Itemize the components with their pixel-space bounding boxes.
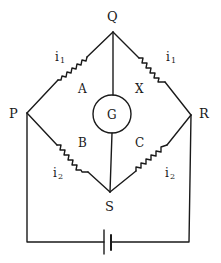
battery-branch [27, 113, 191, 254]
resistor-b-label: B [78, 136, 87, 150]
current-label-a: i 1 [55, 50, 65, 65]
node-p-label: P [9, 106, 18, 121]
current-label-x: i 1 [166, 50, 176, 65]
arm-s-r [110, 115, 191, 192]
svg-text:1: 1 [60, 56, 65, 65]
svg-text:i: i [166, 50, 170, 64]
svg-text:i: i [53, 166, 57, 180]
svg-text:i: i [55, 50, 59, 64]
svg-text:2: 2 [170, 172, 175, 181]
svg-text:i: i [165, 166, 169, 180]
node-r-label: R [199, 106, 210, 121]
node-q-label: Q [107, 9, 118, 24]
wheatstone-bridge-diagram: Q P R S A X B C G i 1 i 1 i 2 i 2 [0, 0, 221, 263]
current-label-c: i 2 [165, 166, 175, 181]
resistor-x-icon [139, 58, 165, 82]
arm-q-r [113, 32, 191, 115]
arm-p-s [27, 113, 110, 192]
arm-p-q [27, 32, 113, 113]
resistor-c-label: C [135, 136, 144, 150]
galvanometer-label: G [107, 108, 117, 122]
svg-text:1: 1 [171, 56, 176, 65]
resistor-a-label: A [77, 82, 87, 96]
node-s-label: S [105, 199, 114, 214]
svg-text:2: 2 [58, 172, 63, 181]
current-label-b: i 2 [53, 166, 63, 181]
resistor-x-label: X [135, 82, 144, 96]
